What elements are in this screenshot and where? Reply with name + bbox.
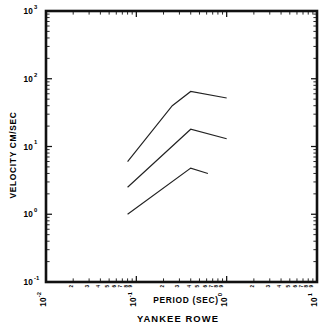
y-label-base: 10 bbox=[23, 75, 33, 84]
y-axis-ticks bbox=[46, 11, 317, 282]
curve-upper-curve bbox=[128, 91, 227, 161]
x-label-exponent: -1 bbox=[127, 291, 133, 297]
y-axis-decade-label: 102 bbox=[23, 72, 38, 84]
figure-container: 234567892345678923456789 10-210-1100101 … bbox=[0, 0, 330, 327]
x-axis-ticks bbox=[46, 11, 317, 282]
x-minor-tick-label: 4 bbox=[277, 284, 282, 287]
x-minor-tick-label: 4 bbox=[187, 284, 192, 287]
y-axis-decade-label: 101 bbox=[23, 139, 38, 151]
x-label-base: 10 bbox=[39, 297, 48, 307]
y-label-exponent: 0 bbox=[34, 207, 38, 213]
y-label-exponent: 1 bbox=[34, 139, 38, 145]
x-minor-tick-label: 6 bbox=[203, 284, 208, 287]
x-minor-tick-label: 9 bbox=[128, 284, 133, 287]
x-label-base: 10 bbox=[129, 297, 138, 307]
y-label-base: 10 bbox=[23, 278, 33, 287]
x-minor-tick-label: 5 bbox=[195, 284, 200, 287]
y-label-exponent: -1 bbox=[34, 275, 40, 281]
y-axis-decade-label: 103 bbox=[23, 4, 38, 16]
response-spectrum-chart: 234567892345678923456789 10-210-1100101 … bbox=[0, 0, 330, 327]
y-label-exponent: 3 bbox=[34, 4, 38, 10]
y-axis-decade-label: 100 bbox=[23, 207, 38, 219]
y-axis-tick-labels: 10310210110010-1 bbox=[23, 4, 39, 287]
x-minor-tick-label: 6 bbox=[112, 284, 117, 287]
x-minor-tick-label: 3 bbox=[85, 284, 90, 287]
x-axis-decade-label: 10-2 bbox=[36, 291, 48, 307]
x-axis-minor-labels: 234567892345678923456789 bbox=[69, 284, 314, 287]
x-minor-tick-label: 6 bbox=[293, 284, 298, 287]
x-minor-tick-label: 5 bbox=[105, 284, 110, 287]
y-label-base: 10 bbox=[23, 143, 33, 152]
x-label-exponent: -2 bbox=[36, 291, 42, 297]
curve-lower-curve bbox=[128, 168, 208, 214]
figure-caption: YANKEE ROWE bbox=[137, 313, 219, 324]
x-minor-tick-label: 2 bbox=[250, 284, 255, 287]
x-minor-tick-label: 2 bbox=[160, 284, 165, 287]
x-axis-title: PERIOD (SEC) bbox=[153, 295, 219, 305]
x-axis-decade-label: 101 bbox=[307, 292, 319, 307]
y-label-base: 10 bbox=[23, 7, 33, 16]
x-axis-decade-label: 10-1 bbox=[127, 291, 139, 307]
data-curves bbox=[128, 91, 227, 214]
y-axis-decade-label: 10-1 bbox=[23, 275, 39, 287]
x-minor-tick-label: 5 bbox=[286, 284, 291, 287]
plot-frame bbox=[46, 11, 317, 282]
x-label-base: 10 bbox=[310, 297, 319, 307]
x-minor-tick-label: 2 bbox=[69, 284, 74, 287]
y-label-base: 10 bbox=[23, 210, 33, 219]
x-minor-tick-label: 3 bbox=[266, 284, 271, 287]
x-minor-tick-label: 4 bbox=[96, 284, 101, 287]
x-label-base: 10 bbox=[220, 297, 229, 307]
x-label-exponent: 1 bbox=[307, 292, 313, 296]
x-minor-tick-label: 3 bbox=[175, 284, 180, 287]
x-minor-tick-label: 9 bbox=[219, 284, 224, 287]
y-label-exponent: 2 bbox=[34, 72, 38, 78]
x-minor-tick-label: 9 bbox=[309, 284, 314, 287]
y-axis-title: VELOCITY CM/SEC bbox=[8, 111, 18, 198]
